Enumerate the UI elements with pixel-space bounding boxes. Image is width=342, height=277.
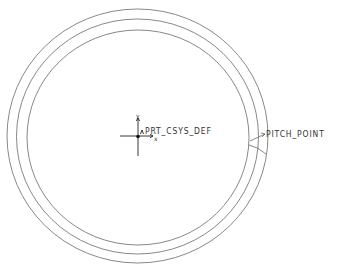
axis-x-label: x [154,136,158,142]
axis-y-label: y [136,113,140,119]
csys-origin-dot [136,135,140,139]
pitch-point-label[interactable]: PITCH_POINT [266,130,325,139]
csys-label[interactable]: PRT_CSYS_DEF [145,127,212,136]
